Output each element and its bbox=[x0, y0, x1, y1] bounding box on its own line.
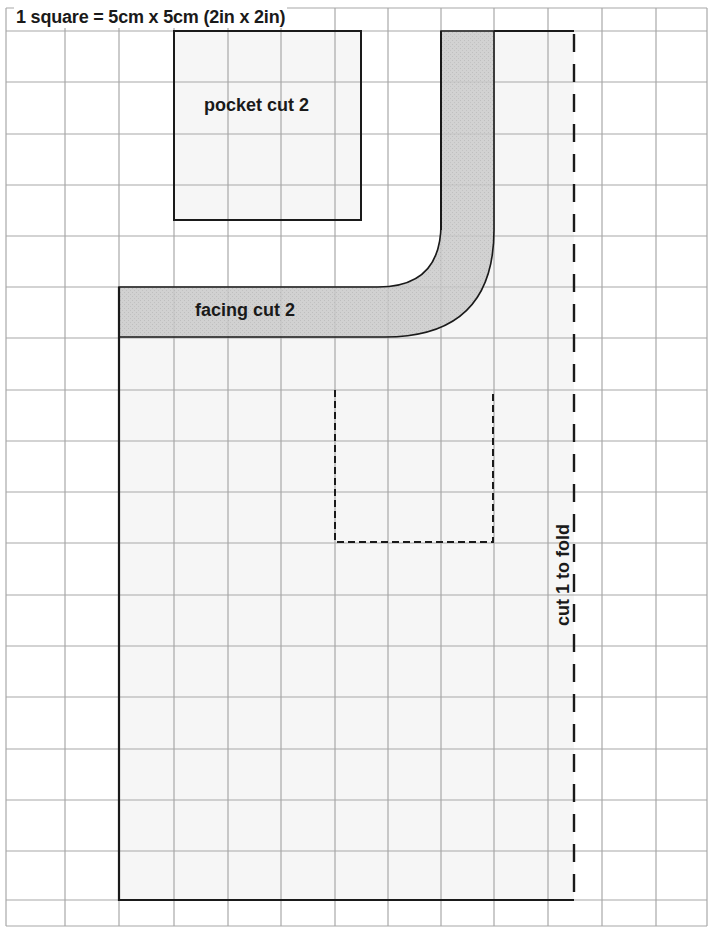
scale-label: 1 square = 5cm x 5cm (2in x 2in) bbox=[14, 7, 287, 28]
pocket-piece bbox=[174, 31, 361, 220]
fold-label: cut 1 to fold bbox=[553, 524, 574, 626]
facing-label: facing cut 2 bbox=[195, 300, 295, 321]
pocket-label: pocket cut 2 bbox=[204, 95, 309, 116]
pattern-diagram bbox=[0, 0, 708, 936]
